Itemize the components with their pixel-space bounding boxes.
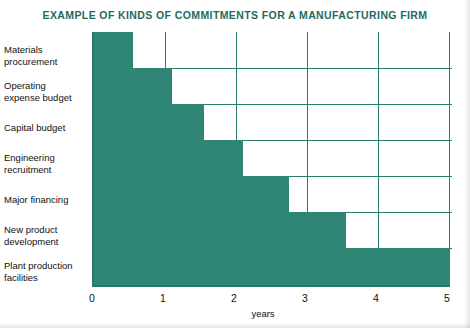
category-label-line-1: Materials	[4, 44, 90, 56]
chart-container: EXAMPLE OF KINDS OF COMMITMENTS FOR A MA…	[0, 0, 470, 328]
category-label-line-1: Engineering	[4, 152, 90, 164]
step-mask-2	[172, 70, 452, 96]
category-label-line-2: development	[4, 236, 90, 248]
category-label-line-2: procurement	[4, 56, 90, 68]
category-label-plant-production-facilities: Plant production facilities	[4, 260, 90, 283]
category-label-line-2: facilities	[4, 272, 90, 284]
x-tick-label-5: 5	[437, 292, 457, 304]
category-label-operating-expense-budget: Operating expense budget	[4, 80, 90, 103]
step-mask-3	[204, 106, 452, 132]
chart-title: EXAMPLE OF KINDS OF COMMITMENTS FOR A MA…	[0, 9, 470, 21]
x-tick-label-2: 2	[224, 292, 244, 304]
category-label-line-2: recruitment	[4, 164, 90, 176]
x-axis-title: years	[0, 308, 470, 319]
x-axis-title-text: years	[251, 308, 274, 319]
x-tick-label-1: 1	[153, 292, 173, 304]
category-label-line-1: New product	[4, 224, 90, 236]
bar-materials-procurement-fill	[94, 32, 133, 68]
bar-capital-budget-fill	[94, 104, 204, 140]
category-label-line-1: Operating	[4, 80, 90, 92]
step-mask-4	[243, 142, 452, 168]
bar-new-product-development-fill	[94, 212, 346, 248]
bar-operating-expense-budget-fill	[94, 68, 172, 104]
category-label-capital-budget: Capital budget	[4, 122, 90, 134]
category-label-major-financing: Major financing	[4, 194, 90, 206]
category-label-line-1: Plant production	[4, 260, 90, 272]
step-mask-1	[133, 34, 452, 60]
x-tick-label-4: 4	[366, 292, 386, 304]
category-label-new-product-development: New product development	[4, 224, 90, 247]
step-mask-5	[289, 178, 452, 204]
bar-major-financing-fill	[94, 176, 289, 212]
category-label-line-1: Major financing	[4, 194, 90, 206]
x-tick-label-0: 0	[82, 292, 102, 304]
step-mask-6	[346, 214, 452, 240]
page-edge-shadow-bottom	[0, 323, 470, 328]
page-edge-shadow-right	[464, 0, 470, 328]
bar-engineering-recruitment-fill	[94, 140, 243, 176]
category-label-line-2: expense budget	[4, 92, 90, 104]
category-label-materials-procurement: Materials procurement	[4, 44, 90, 67]
category-label-line-1: Capital budget	[4, 122, 90, 134]
x-tick-label-3: 3	[295, 292, 315, 304]
category-label-engineering-recruitment: Engineering recruitment	[4, 152, 90, 175]
bar-plant-production-facilities-fill	[94, 248, 450, 285]
plot-area	[92, 32, 450, 287]
